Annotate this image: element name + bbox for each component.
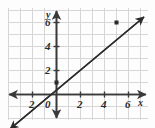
x-tick-label-6: 6 [125, 99, 131, 110]
x-tick-label-2: 2 [77, 99, 83, 110]
x-tick-label-4: 4 [101, 99, 107, 110]
y-tick-label-2: 2 [45, 65, 51, 76]
y-tick-label-6: 6 [45, 17, 51, 28]
plotted-point-markers [55, 21, 119, 85]
x-tick-label-neg-2: 2 [29, 99, 35, 110]
y-tick-label-4: 4 [45, 41, 51, 52]
origin-label: 0 [45, 99, 51, 110]
plotted-line-series [10, 17, 144, 128]
x-axis-label: x [138, 98, 143, 108]
coordinate-graph-figure: y x 6 4 2 0 2 2 4 6 [0, 0, 155, 128]
